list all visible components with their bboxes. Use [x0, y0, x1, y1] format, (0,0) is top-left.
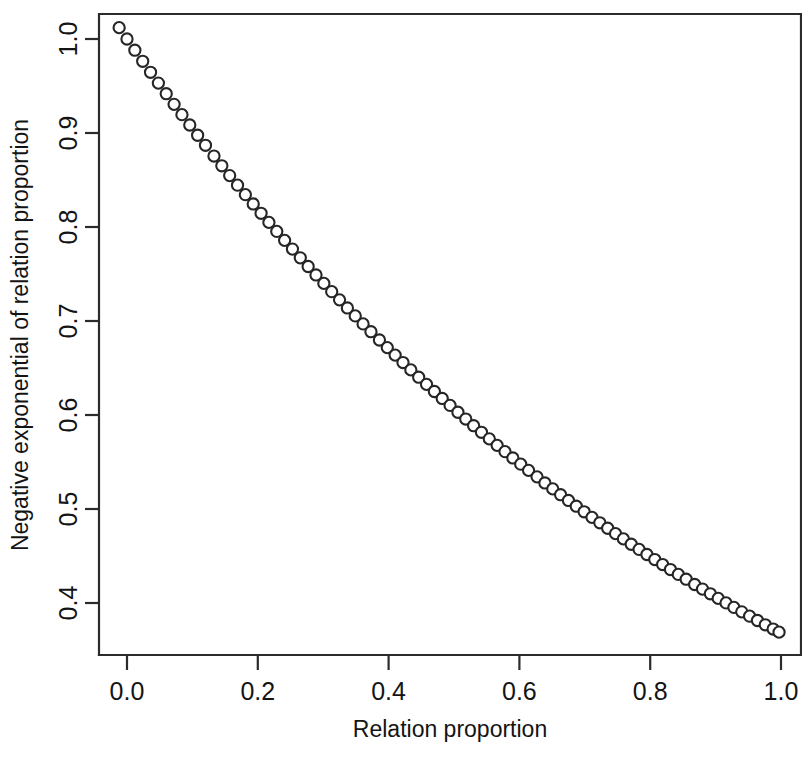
- data-point: [176, 109, 187, 120]
- data-point: [184, 119, 195, 130]
- y-axis-title: Negative exponential of relation proport…: [7, 119, 33, 551]
- data-point: [153, 77, 164, 88]
- data-point: [200, 140, 211, 151]
- data-point: [232, 180, 243, 191]
- data-point: [248, 198, 259, 209]
- x-tick-label: 1.0: [764, 677, 799, 705]
- y-tick-label: 0.5: [54, 492, 82, 527]
- data-point: [129, 45, 140, 56]
- x-tick-label: 0.2: [240, 677, 275, 705]
- data-point: [208, 150, 219, 161]
- y-tick-label: 0.7: [54, 304, 82, 339]
- x-tick-label: 0.4: [371, 677, 406, 705]
- y-tick-label: 0.6: [54, 398, 82, 433]
- y-tick-label: 1.0: [54, 22, 82, 57]
- data-point: [114, 22, 125, 33]
- data-point: [121, 33, 132, 44]
- data-point: [773, 627, 784, 638]
- y-tick-label: 0.9: [54, 116, 82, 151]
- x-tick-label: 0.6: [502, 677, 537, 705]
- plot-frame: [99, 14, 801, 655]
- data-point: [161, 88, 172, 99]
- data-point: [168, 99, 179, 110]
- data-point: [224, 170, 235, 181]
- y-axis-ticks: 0.40.50.60.70.80.91.0: [54, 22, 99, 621]
- x-tick-label: 0.8: [633, 677, 668, 705]
- data-point: [216, 160, 227, 171]
- x-tick-label: 0.0: [110, 677, 145, 705]
- y-tick-label: 0.8: [54, 210, 82, 245]
- data-point: [137, 56, 148, 67]
- chart-figure: 0.40.50.60.70.80.91.0 0.00.20.40.60.81.0…: [0, 0, 802, 758]
- x-axis-title: Relation proportion: [353, 716, 547, 742]
- data-point: [145, 67, 156, 78]
- data-point: [240, 189, 251, 200]
- scatter-plot: 0.40.50.60.70.80.91.0 0.00.20.40.60.81.0…: [0, 0, 802, 758]
- plot-box: [99, 14, 801, 655]
- data-point: [192, 130, 203, 141]
- data-series-exp-neg-x: [114, 22, 785, 638]
- x-axis-ticks: 0.00.20.40.60.81.0: [110, 655, 799, 705]
- y-tick-label: 0.4: [54, 586, 82, 621]
